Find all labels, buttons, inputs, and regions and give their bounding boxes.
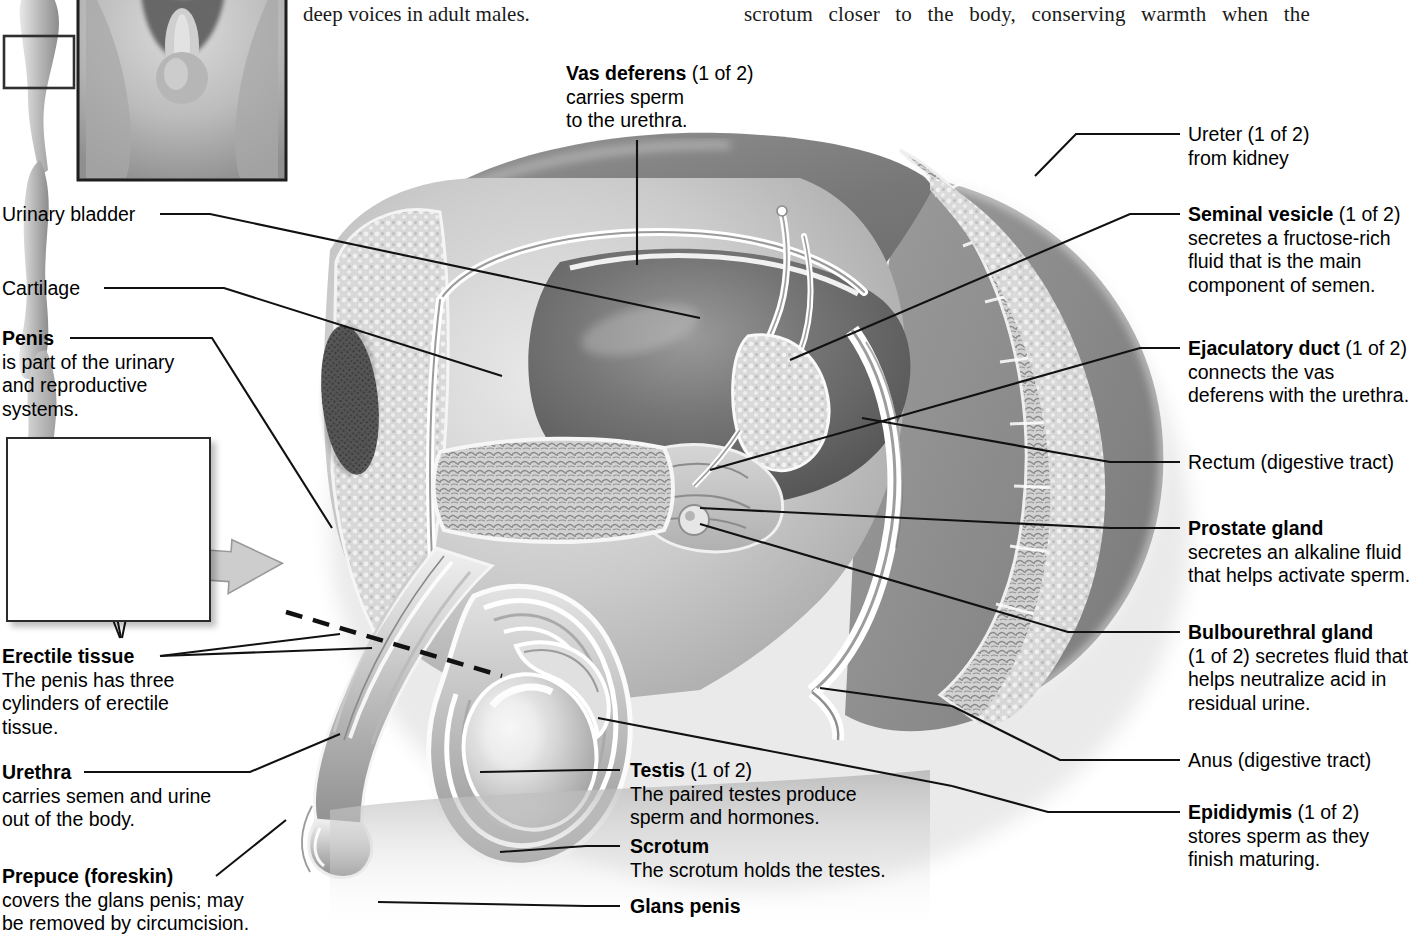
label-epididymis-qualifier: (1 of 2) <box>1292 801 1359 823</box>
label-cartilage[interactable]: Cartilage <box>2 277 80 301</box>
label-urethra-body: carries semen and urineout of the body. <box>2 785 211 832</box>
label-vas-deferens-qualifier: (1 of 2) <box>686 62 753 84</box>
leader-scrotum <box>500 846 620 852</box>
label-scrotum[interactable]: Scrotum The scrotum holds the testes. <box>630 835 886 882</box>
label-erectile-tissue-body: The penis has threecylinders of erectile… <box>2 669 174 740</box>
label-bulbourethral-gland-title: Bulbourethral gland <box>1188 621 1373 643</box>
label-glans-penis[interactable]: Glans penis <box>630 895 741 919</box>
leader-epididymis <box>952 786 1180 812</box>
leader-seminal-vesicle <box>790 214 1180 360</box>
label-erectile-tissue[interactable]: Erectile tissue The penis has threecylin… <box>2 645 174 739</box>
label-vas-deferens-title: Vas deferens <box>566 62 686 84</box>
leader-testis <box>480 770 620 772</box>
label-urinary-bladder-title: Urinary bladder <box>2 203 135 225</box>
leader-prostate-gland <box>700 508 1180 528</box>
label-bulbourethral-gland-body: (1 of 2) secretes fluid thathelps neutra… <box>1188 645 1408 716</box>
label-anus[interactable]: Anus (digestive tract) <box>1188 749 1371 773</box>
label-ureter-title: Ureter (1 of 2) <box>1188 123 1309 145</box>
label-penis-title: Penis <box>2 327 54 349</box>
leader-bulbourethral-gland <box>700 524 1180 632</box>
label-testis-body: The paired testes producesperm and hormo… <box>630 783 857 830</box>
label-erectile-tissue-title: Erectile tissue <box>2 645 134 667</box>
label-prepuce-body: covers the glans penis; maybe removed by… <box>2 889 249 935</box>
label-ureter-body: from kidney <box>1188 147 1309 171</box>
label-epididymis-title: Epididymis <box>1188 801 1292 823</box>
label-testis[interactable]: Testis (1 of 2) The paired testes produc… <box>630 759 857 830</box>
label-urethra-title: Urethra <box>2 761 71 783</box>
label-prepuce-title: Prepuce (foreskin) <box>2 865 173 887</box>
leader-anus <box>952 706 1180 760</box>
label-penis[interactable]: Penis is part of the urinaryand reproduc… <box>2 327 174 421</box>
label-bulbourethral-gland[interactable]: Bulbourethral gland (1 of 2) secretes fl… <box>1188 621 1408 715</box>
body-text-right-column: scrotum closer to the body, conserving w… <box>744 2 1310 27</box>
label-prostate-gland-body: secretes an alkaline fluidthat helps act… <box>1188 541 1410 588</box>
label-penis-body: is part of the urinaryand reproductivesy… <box>2 351 174 422</box>
label-scrotum-body: The scrotum holds the testes. <box>630 859 886 883</box>
label-cartilage-title: Cartilage <box>2 277 80 299</box>
label-ureter[interactable]: Ureter (1 of 2) from kidney <box>1188 123 1309 170</box>
leader-anus-inner <box>820 688 952 706</box>
label-ejaculatory-duct-title: Ejaculatory duct <box>1188 337 1340 359</box>
label-epididymis[interactable]: Epididymis (1 of 2) stores sperm as they… <box>1188 801 1369 872</box>
label-epididymis-body: stores sperm as theyfinish maturing. <box>1188 825 1369 872</box>
label-seminal-vesicle-qualifier: (1 of 2) <box>1333 203 1400 225</box>
label-vas-deferens[interactable]: Vas deferens (1 of 2) carries spermto th… <box>566 62 754 133</box>
label-scrotum-title: Scrotum <box>630 835 709 857</box>
label-ejaculatory-duct[interactable]: Ejaculatory duct (1 of 2) connects the v… <box>1188 337 1409 408</box>
label-glans-penis-title: Glans penis <box>630 895 741 917</box>
label-ejaculatory-duct-qualifier: (1 of 2) <box>1340 337 1407 359</box>
label-testis-title: Testis <box>630 759 685 781</box>
label-prepuce[interactable]: Prepuce (foreskin) covers the glans peni… <box>2 865 249 935</box>
leader-ureter <box>1035 134 1180 176</box>
label-anus-title: Anus (digestive tract) <box>1188 749 1371 771</box>
label-prostate-gland[interactable]: Prostate gland secretes an alkaline flui… <box>1188 517 1410 588</box>
body-text-left-column: deep voices in adult males. <box>303 2 530 27</box>
label-seminal-vesicle-title: Seminal vesicle <box>1188 203 1333 225</box>
label-testis-qualifier: (1 of 2) <box>685 759 752 781</box>
cross-section-inset-frame <box>6 437 211 622</box>
label-urinary-bladder[interactable]: Urinary bladder <box>2 203 135 227</box>
leader-ejaculatory-duct <box>710 348 1180 470</box>
leader-glans-penis <box>378 902 620 906</box>
leader-urinary-bladder <box>160 214 700 318</box>
leader-rectum <box>862 418 1180 462</box>
label-rectum[interactable]: Rectum (digestive tract) <box>1188 451 1394 475</box>
label-rectum-title: Rectum (digestive tract) <box>1188 451 1394 473</box>
label-seminal-vesicle-body: secretes a fructose-richfluid that is th… <box>1188 227 1400 298</box>
label-seminal-vesicle[interactable]: Seminal vesicle (1 of 2) secretes a fruc… <box>1188 203 1400 297</box>
label-prostate-gland-title: Prostate gland <box>1188 517 1323 539</box>
label-vas-deferens-body: carries spermto the urethra. <box>566 86 754 133</box>
label-urethra[interactable]: Urethra carries semen and urineout of th… <box>2 761 211 832</box>
label-ejaculatory-duct-body: connects the vasdeferens with the urethr… <box>1188 361 1409 408</box>
